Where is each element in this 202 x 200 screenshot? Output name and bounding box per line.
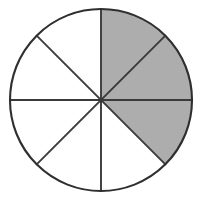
fraction-circle-figure	[0, 0, 202, 200]
fraction-circle-diagram	[0, 0, 202, 200]
